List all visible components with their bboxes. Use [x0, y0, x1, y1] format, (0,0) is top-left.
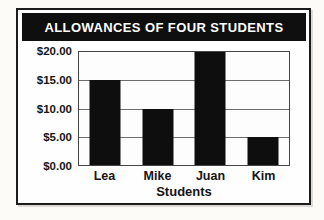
x-axis: LeaMikeJuanKim — [78, 169, 290, 185]
y-axis: $20.00$15.00$10.00$5.00$0.00 — [18, 51, 74, 166]
chart-card: ALLOWANCES OF FOUR STUDENTS $20.00$15.00… — [16, 8, 311, 205]
page-background: ALLOWANCES OF FOUR STUDENTS $20.00$15.00… — [0, 0, 324, 220]
bar-lea — [90, 80, 121, 165]
x-tick-label-mike: Mike — [131, 169, 184, 185]
y-tick-label: $0.00 — [43, 160, 72, 172]
x-tick-label-juan: Juan — [184, 169, 237, 185]
x-tick-label-lea: Lea — [78, 169, 131, 185]
chart-title-banner: ALLOWANCES OF FOUR STUDENTS — [22, 13, 306, 41]
chart-title: ALLOWANCES OF FOUR STUDENTS — [44, 20, 283, 35]
y-tick-label: $20.00 — [37, 45, 72, 57]
y-tick-label: $10.00 — [37, 103, 72, 115]
bar-juan — [195, 52, 226, 165]
bar-mike — [142, 109, 173, 166]
bar-kim — [247, 137, 278, 165]
plot-area — [78, 51, 290, 166]
x-axis-title: Students — [78, 184, 290, 199]
y-tick-label: $5.00 — [43, 131, 72, 143]
y-tick-label: $15.00 — [37, 74, 72, 86]
x-tick-label-kim: Kim — [237, 169, 290, 185]
